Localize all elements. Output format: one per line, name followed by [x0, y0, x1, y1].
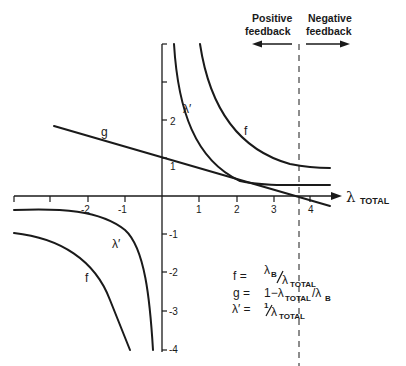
equation-legend: f = λ B λ TOTAL g = 1−λ TOTAL /λ B λ′ = … — [232, 263, 331, 321]
eq-g-sub: TOTAL — [285, 294, 311, 303]
x-axis-symbol: λ — [346, 188, 356, 206]
x-tick-label: 3 — [271, 204, 277, 215]
negative-feedback-label-1: Negative — [308, 12, 352, 24]
y-tick-label: -2 — [169, 267, 178, 278]
eq-lambda-lhs: λ′ = — [232, 302, 251, 316]
g-curve — [54, 126, 330, 206]
eq-g-rhs: 1−λ — [264, 286, 284, 300]
y-tick-label: 1 — [170, 161, 176, 172]
f-negative-label: f — [85, 271, 89, 285]
x-axis — [14, 192, 342, 202]
eq-f-num-sub: B — [271, 270, 277, 279]
negative-feedback-arrow-icon — [306, 41, 350, 48]
y-tick-label: 2 — [170, 116, 176, 127]
eq-f-lhs: f = — [233, 269, 247, 283]
lambda-prime-negative-curve — [14, 209, 153, 350]
positive-feedback-arrow-icon — [252, 41, 292, 48]
f-curve-label: f — [244, 124, 248, 138]
f-curve — [200, 44, 330, 168]
y-tick-label: -3 — [169, 306, 178, 317]
eq-lambda-den: λ — [271, 305, 277, 319]
y-tick-label: -1 — [169, 229, 178, 240]
lambda-prime-negative-label: λ′ — [112, 237, 121, 251]
y-axis — [162, 44, 167, 352]
x-tick-label: 1 — [196, 204, 202, 215]
lambda-prime-curve — [174, 44, 330, 185]
eq-g-tail-sub: B — [325, 294, 331, 303]
x-axis-subscript: TOTAL — [360, 196, 390, 206]
positive-feedback-label-1: Positive — [252, 12, 292, 24]
eq-g-lhs: g = — [233, 286, 250, 300]
eq-f-den: λ — [282, 273, 288, 287]
negative-feedback-label-2: feedback — [306, 25, 352, 37]
eq-f-num: λ — [264, 263, 270, 277]
eq-lambda-den-sub: TOTAL — [279, 312, 305, 321]
diagram-canvas: Positive feedback Negative feedback -2 -… — [0, 0, 406, 366]
g-curve-label: g — [101, 125, 108, 139]
positive-feedback-label-2: feedback — [245, 25, 291, 37]
lambda-prime-curve-label: λ′ — [183, 102, 192, 116]
eq-g-tail: /λ — [312, 286, 321, 300]
x-tick-label: 4 — [308, 204, 314, 215]
x-tick-label: -1 — [118, 204, 127, 215]
x-tick-label: 2 — [234, 204, 240, 215]
y-tick-label: -4 — [169, 344, 178, 355]
feedback-diagram: Positive feedback Negative feedback -2 -… — [0, 0, 406, 366]
eq-lambda-num: 1 — [264, 301, 269, 310]
